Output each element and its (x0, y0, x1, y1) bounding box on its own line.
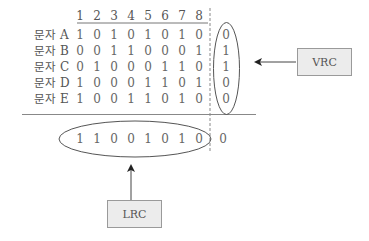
bit-cell: 1 (176, 92, 188, 106)
bit-cell: 0 (108, 76, 120, 90)
bit-cell: 1 (108, 28, 120, 42)
row-label-letter: D (60, 76, 70, 90)
bit-cell: 1 (74, 76, 86, 90)
bit-cell: 0 (91, 28, 103, 42)
bit-cell: 0 (125, 76, 137, 90)
bit-cell: 1 (159, 60, 171, 74)
bit-cell: 0 (91, 76, 103, 90)
lrc-bit: 1 (91, 132, 103, 146)
bit-cell: 1 (91, 60, 103, 74)
bit-cell: 1 (74, 92, 86, 106)
lrc-parity-bit: 0 (217, 132, 229, 146)
bit-cell: 0 (74, 60, 86, 74)
vrc-bit: 0 (220, 28, 232, 42)
row-label-prefix: 문자 (34, 60, 56, 74)
bit-cell: 1 (176, 28, 188, 42)
lrc-bit: 1 (142, 132, 154, 146)
bit-cell: 1 (193, 44, 205, 58)
row-label-prefix: 문자 (34, 44, 56, 58)
column-header: 4 (125, 9, 137, 23)
lrc-bit: 0 (108, 132, 120, 146)
bit-cell: 0 (142, 60, 154, 74)
bit-cell: 0 (108, 60, 120, 74)
bit-cell: 0 (125, 28, 137, 42)
row-label-letter: A (60, 28, 69, 42)
bit-cell: 0 (193, 28, 205, 42)
vrc-bit: 0 (220, 92, 232, 106)
bit-cell: 1 (193, 76, 205, 90)
column-header: 2 (91, 9, 103, 23)
column-header: 6 (159, 9, 171, 23)
bit-cell: 0 (125, 60, 137, 74)
bit-cell: 0 (159, 28, 171, 42)
lrc-label-box: LRC (107, 200, 162, 228)
column-header: 5 (142, 9, 154, 23)
row-label-letter: C (60, 60, 69, 74)
bit-cell: 1 (108, 44, 120, 58)
lrc-label: LRC (122, 208, 146, 221)
row-label-prefix: 문자 (34, 28, 56, 42)
vrc-label: VRC (312, 56, 337, 69)
column-header: 1 (74, 9, 86, 23)
lrc-bit: 0 (125, 132, 137, 146)
parity-diagram: 1 2 3 4 5 6 7 8 문자A 1 0 1 0 1 0 1 0 0 문자… (0, 0, 369, 241)
bit-cell: 1 (142, 92, 154, 106)
row-label-a: 문자A (34, 28, 69, 42)
bit-cell: 1 (159, 76, 171, 90)
lrc-bit: 1 (176, 132, 188, 146)
bit-cell: 0 (91, 92, 103, 106)
bit-cell: 1 (142, 76, 154, 90)
bit-cell: 0 (193, 60, 205, 74)
row-label-b: 문자B (34, 44, 69, 58)
row-label-letter: B (60, 44, 69, 58)
bit-cell: 0 (108, 92, 120, 106)
bit-cell: 0 (176, 76, 188, 90)
lrc-bit: 0 (159, 132, 171, 146)
row-label-prefix: 문자 (34, 92, 56, 106)
row-label-c: 문자C (34, 60, 69, 74)
column-header: 7 (176, 9, 188, 23)
bit-cell: 0 (176, 44, 188, 58)
row-label-d: 문자D (34, 76, 70, 90)
bit-cell: 1 (125, 44, 137, 58)
bit-cell: 1 (125, 92, 137, 106)
bit-cell: 0 (74, 44, 86, 58)
bit-cell: 0 (159, 92, 171, 106)
column-header: 8 (193, 9, 205, 23)
bit-cell: 0 (142, 44, 154, 58)
row-label-prefix: 문자 (34, 76, 56, 90)
bit-cell: 0 (159, 44, 171, 58)
column-header: 3 (108, 9, 120, 23)
vrc-bit: 1 (220, 60, 232, 74)
bit-cell: 0 (91, 44, 103, 58)
bit-cell: 0 (193, 92, 205, 106)
row-label-letter: E (60, 92, 69, 106)
vrc-label-box: VRC (297, 48, 352, 76)
bit-cell: 1 (176, 60, 188, 74)
bit-cell: 1 (74, 28, 86, 42)
bit-cell: 1 (142, 28, 154, 42)
lrc-bit: 1 (74, 132, 86, 146)
lrc-bit: 0 (193, 132, 205, 146)
row-label-e: 문자E (34, 92, 69, 106)
vrc-bit: 0 (220, 76, 232, 90)
vrc-bit: 1 (220, 44, 232, 58)
